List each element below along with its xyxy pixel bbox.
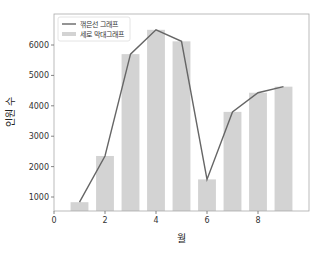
legend-bar-swatch — [62, 32, 76, 36]
y-tick-label: 4000 — [29, 102, 49, 111]
legend-label-bar: 세로 막대그래프 — [80, 30, 125, 39]
chart: 02468 100020003000400050006000 월 인원 수 꺾은… — [0, 0, 326, 258]
y-tick-label: 5000 — [29, 71, 49, 80]
legend-label-line: 꺾은선 그래프 — [80, 20, 119, 29]
y-tick-label: 3000 — [29, 132, 49, 141]
y-tick-label: 6000 — [29, 41, 49, 50]
bar — [275, 87, 293, 211]
y-axis-ticks: 100020003000400050006000 — [29, 41, 54, 202]
x-tick-label: 8 — [255, 216, 260, 225]
y-axis-label: 인원 수 — [5, 97, 16, 127]
x-axis-ticks: 02468 — [51, 211, 260, 225]
x-tick-label: 6 — [204, 216, 209, 225]
bar — [71, 202, 89, 211]
legend: 꺾은선 그래프 세로 막대그래프 — [58, 17, 130, 41]
bar — [173, 41, 191, 211]
bar — [147, 30, 165, 211]
bar-series — [71, 30, 293, 211]
x-tick-label: 4 — [153, 216, 158, 225]
bar — [198, 179, 216, 211]
bar — [249, 93, 267, 211]
x-tick-label: 0 — [51, 216, 56, 225]
x-tick-label: 2 — [102, 216, 107, 225]
y-tick-label: 1000 — [29, 193, 49, 202]
x-axis-label: 월 — [177, 233, 186, 244]
bar — [96, 156, 114, 211]
y-tick-label: 2000 — [29, 163, 49, 172]
